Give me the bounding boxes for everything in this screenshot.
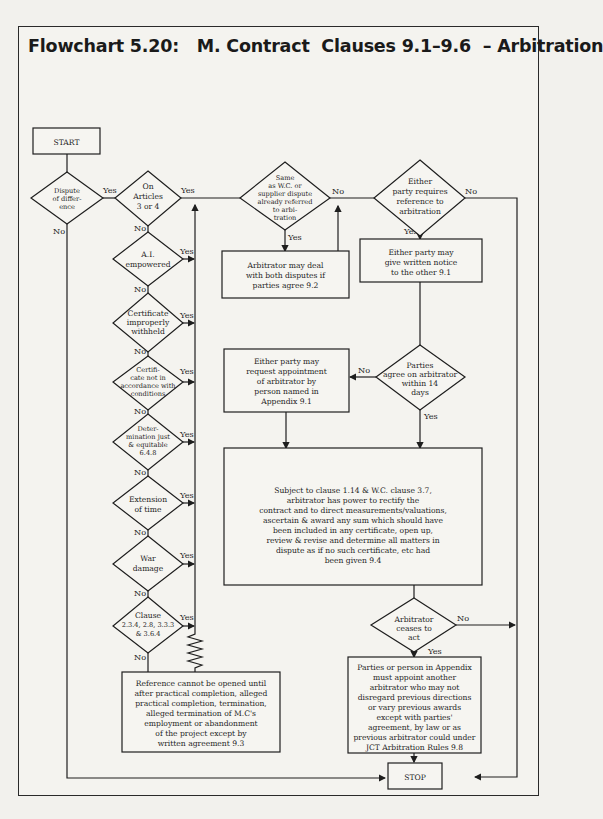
start-node: START [33, 128, 100, 154]
written-notice-box: Either party may give written notice to … [360, 239, 482, 282]
svg-text:Parties: Parties [407, 361, 434, 370]
decision-dispute: Dispute of differ- ence [31, 172, 103, 224]
svg-text:Yes: Yes [180, 185, 195, 195]
svg-text:agree on arbitrator: agree on arbitrator [383, 370, 458, 379]
svg-text:Clause: Clause [135, 611, 162, 620]
svg-text:No: No [457, 613, 469, 623]
svg-text:Deter-: Deter- [137, 425, 158, 433]
svg-text:START: START [54, 138, 80, 147]
reference-box: Reference cannot be opened until after p… [122, 672, 280, 752]
svg-text:accordance with: accordance with [120, 382, 176, 390]
svg-text:mination just: mination just [126, 433, 170, 441]
svg-text:employment or abandonment: employment or abandonment [144, 719, 257, 728]
svg-text:Appendix 9.1: Appendix 9.1 [260, 397, 312, 406]
svg-text:to the other 9.1: to the other 9.1 [391, 268, 451, 277]
request-appointment-box: Either party may request appointment of … [224, 349, 349, 412]
svg-text:party requires: party requires [392, 187, 447, 196]
svg-text:been included in any certifica: been included in any certificate, open u… [273, 526, 433, 535]
svg-text:arbitrator has power to rectif: arbitrator has power to rectify the [287, 496, 420, 505]
svg-text:Dispute: Dispute [54, 187, 80, 195]
svg-text:No: No [134, 527, 146, 537]
decision-ai-empowered: A.I. empowered [113, 232, 183, 286]
svg-text:Yes: Yes [179, 490, 194, 500]
svg-text:arbitrator who may not: arbitrator who may not [370, 683, 460, 692]
arbitrator-power-box: Subject to clause 1.14 & W.C. clause 3.7… [224, 448, 482, 585]
svg-text:Yes: Yes [179, 310, 194, 320]
svg-text:No: No [332, 186, 344, 196]
svg-text:Articles: Articles [132, 192, 163, 201]
svg-text:War: War [140, 554, 156, 563]
svg-text:Parties or person in Appendix: Parties or person in Appendix [357, 663, 472, 672]
decision-war-damage: War damage [113, 536, 183, 591]
svg-text:of the project except by: of the project except by [155, 729, 247, 738]
svg-text:ence: ence [59, 203, 75, 211]
svg-text:Yes: Yes [179, 246, 194, 256]
svg-text:must appoint another: must appoint another [373, 673, 456, 682]
decision-determination: Deter- mination just & equitable 6.4.8 [113, 414, 183, 470]
decision-clause: Clause 2.3.4, 2.8, 3.3.3 & 3.6.4 [113, 597, 183, 653]
svg-text:conditions: conditions [131, 390, 166, 398]
svg-text:Yes: Yes [423, 411, 438, 421]
svg-text:No: No [53, 226, 65, 236]
svg-text:reference to: reference to [396, 197, 444, 206]
svg-text:tration: tration [274, 214, 297, 222]
svg-text:No: No [134, 652, 146, 662]
decision-parties-agree: Parties agree on arbitrator within 14 da… [376, 345, 465, 410]
svg-text:been given 9.4: been given 9.4 [325, 556, 382, 565]
decision-either-requires: Either party requires reference to arbit… [374, 160, 465, 236]
svg-text:act: act [408, 633, 420, 642]
decision-certificate-withheld: Certificate improperly withheld [113, 293, 183, 352]
svg-text:Yes: Yes [287, 232, 302, 242]
svg-text:of arbitrator by: of arbitrator by [257, 377, 317, 386]
svg-text:No: No [134, 223, 146, 233]
svg-text:of time: of time [135, 505, 162, 514]
svg-text:ascertain & award any sum whic: ascertain & award any sum which should h… [263, 516, 443, 525]
svg-text:& equitable: & equitable [128, 441, 167, 449]
svg-text:as W.C. or: as W.C. or [268, 182, 302, 190]
svg-text:On: On [142, 182, 153, 191]
svg-text:with both disputes if: with both disputes if [246, 271, 326, 280]
svg-text:review & revise and determine: review & revise and determine all matter… [266, 536, 439, 545]
svg-text:3 or 4: 3 or 4 [137, 202, 160, 211]
svg-text:Subject to clause 1.14 & W.C.: Subject to clause 1.14 & W.C. clause 3.7… [274, 486, 432, 495]
svg-text:agreement, by law or as: agreement, by law or as [368, 723, 461, 732]
decision-articles: On Articles 3 or 4 [115, 171, 181, 226]
svg-text:Either: Either [408, 177, 432, 186]
svg-text:ceases to: ceases to [396, 624, 432, 633]
svg-text:alleged termination of M.C's: alleged termination of M.C's [146, 709, 256, 718]
svg-text:A.I.: A.I. [140, 250, 154, 259]
svg-text:Yes: Yes [179, 612, 194, 622]
svg-text:Yes: Yes [179, 366, 194, 376]
svg-text:Arbitrator: Arbitrator [394, 615, 434, 624]
svg-text:empowered: empowered [125, 260, 170, 269]
svg-text:already referred: already referred [258, 198, 314, 206]
svg-text:supplier dispute: supplier dispute [258, 190, 312, 198]
svg-text:parties agree 9.2: parties agree 9.2 [253, 281, 319, 290]
appoint-another-box: Parties or person in Appendix must appoi… [348, 657, 481, 753]
svg-text:damage: damage [133, 564, 164, 573]
svg-text:STOP: STOP [404, 773, 426, 782]
svg-text:6.4.8: 6.4.8 [140, 449, 157, 457]
svg-text:cate not in: cate not in [130, 374, 166, 382]
decision-extension-of-time: Extension of time [113, 476, 183, 530]
svg-text:except with parties': except with parties' [376, 713, 452, 722]
svg-text:give written notice: give written notice [385, 258, 458, 267]
svg-text:contract and to direct measure: contract and to direct measurements/valu… [259, 506, 447, 515]
svg-text:within 14: within 14 [402, 379, 438, 388]
svg-text:Reference cannot be opened unt: Reference cannot be opened until [136, 679, 267, 688]
svg-text:written agreement 9.3: written agreement 9.3 [158, 739, 245, 748]
svg-text:Extension: Extension [129, 495, 167, 504]
svg-text:& 3.6.4: & 3.6.4 [136, 630, 161, 638]
svg-text:Certificate: Certificate [128, 309, 169, 318]
svg-text:of differ-: of differ- [53, 195, 82, 203]
svg-text:request appointment: request appointment [246, 367, 327, 376]
svg-text:arbitration: arbitration [399, 207, 441, 216]
svg-text:Either party may: Either party may [254, 357, 320, 366]
svg-text:days: days [411, 388, 429, 397]
svg-text:No: No [465, 186, 477, 196]
svg-text:No: No [134, 588, 146, 598]
decision-arbitrator-ceases: Arbitrator ceases to act [371, 598, 456, 652]
svg-text:practical completion, terminat: practical completion, termination, [135, 699, 267, 708]
stop-node: STOP [388, 763, 442, 789]
svg-text:dispute as if no such certific: dispute as if no such certificate, etc h… [276, 546, 430, 555]
